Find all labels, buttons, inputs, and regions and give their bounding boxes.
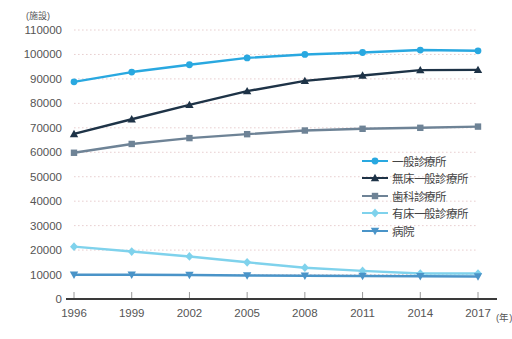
legend-item-label: 有床一般診療所 [392, 205, 468, 221]
x-axis-ticks [74, 292, 478, 299]
data-point-marker [371, 228, 379, 235]
data-point-marker [185, 252, 193, 261]
data-point-marker [372, 193, 378, 199]
data-point-marker [186, 61, 193, 68]
y-axis-tick-label: 110000 [0, 24, 62, 36]
y-axis-unit-label: (施設) [26, 9, 50, 22]
data-point-marker [129, 141, 135, 147]
chart-series-1 [71, 47, 482, 86]
data-point-marker [301, 263, 309, 272]
data-point-marker [302, 127, 308, 133]
legend-item-label: 一般診療所 [392, 153, 446, 169]
x-axis-tick-label: 1999 [119, 307, 145, 319]
legend-glyph [368, 224, 382, 238]
data-point-marker [71, 150, 77, 156]
y-axis-tick-label: 70000 [0, 122, 62, 134]
data-point-marker [371, 209, 379, 218]
legend-glyph-shape [371, 228, 379, 235]
y-axis-tick-label: 0 [0, 293, 62, 305]
x-axis-tick-label: 2002 [177, 307, 203, 319]
y-axis-tick-label: 100000 [0, 48, 62, 60]
legend-marker-triangle-down-icon [362, 224, 388, 238]
y-axis-tick-label: 20000 [0, 244, 62, 256]
data-point-marker [243, 258, 251, 267]
data-point-marker [475, 123, 481, 129]
data-point-marker [359, 49, 366, 56]
legend-item-1[interactable]: 一般診療所 [362, 152, 494, 170]
series-line [74, 70, 478, 134]
x-axis-tick-label: 2005 [234, 307, 260, 319]
x-axis-tick-label: 1996 [61, 307, 87, 319]
y-axis-tick-label: 30000 [0, 220, 62, 232]
x-axis-tick-label: 2008 [292, 307, 318, 319]
legend-item-4[interactable]: 有床一般診療所 [362, 205, 494, 223]
y-axis-tick-label: 60000 [0, 146, 62, 158]
legend-marker-triangle-up-icon [362, 171, 388, 185]
data-point-marker [71, 78, 78, 85]
x-axis-tick-label: 2014 [407, 307, 433, 319]
data-point-marker [128, 247, 136, 256]
data-point-marker [371, 174, 379, 181]
legend-glyph [368, 171, 382, 185]
data-point-marker [301, 51, 308, 58]
legend-marker-circle-icon [362, 154, 388, 168]
chart-legend: 一般診療所無床一般診療所歯科診療所有床一般診療所病院 [362, 152, 494, 240]
legend-glyph [368, 206, 382, 220]
data-point-marker [186, 135, 192, 141]
data-point-marker [128, 69, 135, 76]
x-axis-tick-label: 2011 [350, 307, 375, 319]
y-axis-tick-label: 10000 [0, 269, 62, 281]
legend-glyph-shape [372, 193, 378, 199]
legend-item-label: 歯科診療所 [392, 188, 446, 204]
legend-glyph [368, 189, 382, 203]
data-point-marker [475, 47, 482, 54]
data-point-marker [244, 131, 250, 137]
legend-item-label: 無床一般診療所 [392, 170, 468, 186]
legend-marker-square-icon [362, 189, 388, 203]
data-point-marker [372, 157, 379, 164]
legend-glyph-shape [371, 209, 379, 218]
legend-item-5[interactable]: 病院 [362, 222, 494, 240]
y-axis-tick-label: 90000 [0, 73, 62, 85]
x-axis-tick-label: 2017 [465, 307, 491, 319]
x-axis-unit-label: (年) [496, 310, 512, 324]
y-axis-tick-label: 50000 [0, 171, 62, 183]
legend-glyph-shape [371, 174, 379, 181]
data-point-marker [417, 125, 423, 131]
y-axis-tick-label: 80000 [0, 97, 62, 109]
data-point-marker [417, 47, 424, 54]
data-point-marker [359, 126, 365, 132]
legend-glyph-shape [372, 157, 379, 164]
data-point-marker [244, 54, 251, 61]
legend-glyph [368, 154, 382, 168]
legend-item-2[interactable]: 無床一般診療所 [362, 170, 494, 188]
y-axis-tick-label: 40000 [0, 195, 62, 207]
legend-item-3[interactable]: 歯科診療所 [362, 187, 494, 205]
legend-marker-diamond-icon [362, 206, 388, 220]
legend-item-label: 病院 [392, 223, 414, 239]
data-point-marker [70, 242, 78, 251]
